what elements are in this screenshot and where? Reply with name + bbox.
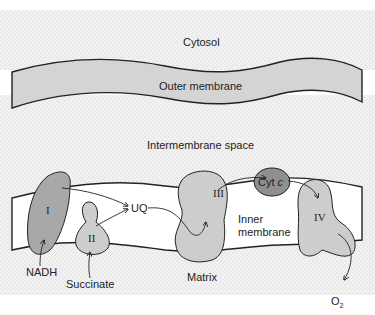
oxygen-subscript: 2 [340, 302, 344, 309]
cyt-prefix: Cyt [258, 176, 278, 188]
complex-3-shape [175, 171, 227, 262]
label-cytosol: Cytosol [183, 37, 220, 48]
label-complex-4: IV [314, 212, 326, 223]
label-intermembrane-space: Intermembrane space [147, 140, 254, 151]
label-inner-membrane-1: Inner [238, 214, 263, 225]
label-outer-membrane: Outer membrane [159, 81, 242, 92]
cyt-suffix: c [278, 176, 284, 188]
label-complex-3: III [213, 188, 224, 199]
label-inner-membrane-2: membrane [238, 227, 291, 238]
label-cytochrome-c: Cyt c [258, 177, 283, 188]
label-oxygen: O2 [331, 296, 343, 309]
label-nadh: NADH [26, 267, 57, 278]
label-succinate: Succinate [66, 279, 114, 290]
label-ubiquinone: UQ [131, 203, 148, 214]
label-matrix: Matrix [187, 272, 217, 283]
label-complex-2: II [88, 233, 95, 244]
label-complex-1: I [46, 205, 50, 216]
oxygen-symbol: O [331, 295, 340, 307]
